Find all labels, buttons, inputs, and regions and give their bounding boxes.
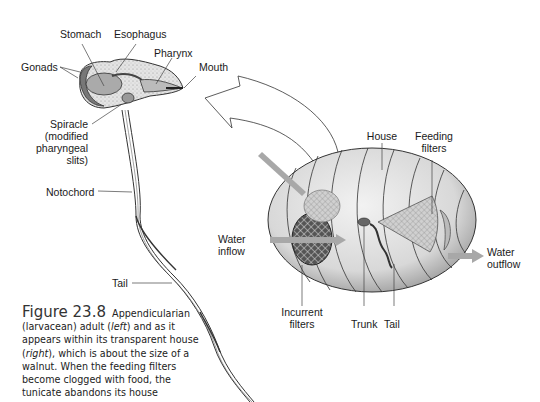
caption-right: right	[26, 348, 49, 359]
label-water-outflow-line1: Water	[487, 246, 520, 258]
label-water-inflow-line2: inflow	[218, 245, 246, 257]
label-spiracle-line3: pharyngeal	[30, 142, 88, 154]
label-tail-left: Tail	[112, 277, 128, 289]
larvacean-body	[80, 59, 183, 108]
caption-left: left	[111, 321, 127, 332]
label-spiracle-line1: Spiracle	[30, 118, 88, 130]
label-pharynx: Pharynx	[154, 47, 193, 59]
figure-caption: Figure 23.8 Appendicularian (larvacean) …	[22, 306, 200, 399]
label-spiracle-line4: slits)	[30, 154, 88, 166]
label-feeding-line2: filters	[412, 142, 456, 154]
label-feeding-line1: Feeding	[412, 130, 456, 142]
label-incurrent-line2: filters	[276, 318, 328, 330]
label-notochord: Notochord	[46, 186, 94, 198]
label-stomach: Stomach	[60, 28, 101, 40]
label-water-inflow: Water inflow	[218, 233, 246, 257]
label-water-inflow-line1: Water	[218, 233, 246, 245]
label-water-outflow-line2: outflow	[487, 258, 520, 270]
label-tail-right: Tail	[384, 318, 400, 330]
label-incurrent-line1: Incurrent	[276, 306, 328, 318]
label-mouth: Mouth	[199, 61, 228, 73]
house	[268, 148, 476, 292]
label-house: House	[364, 130, 400, 142]
figure-number: Figure 23.8	[22, 303, 106, 321]
label-feeding-filters: Feeding filters	[412, 130, 456, 154]
label-gonads: Gonads	[21, 61, 58, 73]
label-spiracle: Spiracle (modified pharyngeal slits)	[30, 118, 88, 166]
caption-text-3: ), which is about the size of a walnut. …	[22, 348, 189, 399]
label-esophagus: Esophagus	[114, 28, 167, 40]
label-incurrent-filters: Incurrent filters	[276, 306, 328, 330]
label-water-outflow: Water outflow	[487, 246, 520, 270]
label-trunk: Trunk	[351, 318, 377, 330]
label-spiracle-line2: (modified	[30, 130, 88, 142]
